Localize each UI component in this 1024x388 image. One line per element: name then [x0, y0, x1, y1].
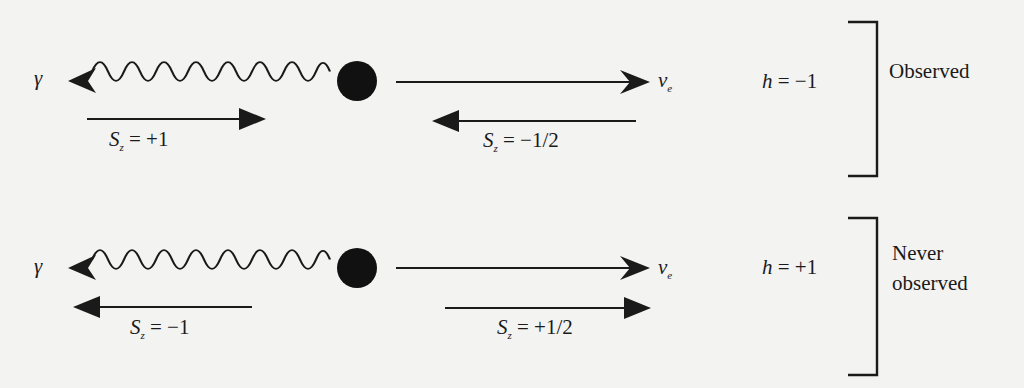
neutrino-symbol: ν	[658, 68, 667, 92]
spin-value: = −1	[150, 315, 189, 339]
spin-value: = +1	[129, 127, 168, 151]
arrowhead-filled-left-icon	[73, 296, 100, 318]
neutrino-subscript: e	[667, 269, 672, 281]
spin-symbol: S	[483, 128, 494, 152]
spin-value: = +1/2	[517, 315, 573, 339]
arrowhead-left-icon	[68, 68, 96, 93]
helicity-label: h = −1	[762, 71, 817, 92]
helicity-symbol: h	[762, 69, 773, 93]
photon-wave-arrow	[68, 250, 330, 280]
row-never-observed	[68, 218, 877, 375]
neutrino-momentum-arrow	[396, 256, 650, 280]
spin-symbol: S	[109, 127, 120, 151]
photon-spin-label: Sz = −1	[130, 317, 189, 338]
helicity-label: h = +1	[762, 257, 817, 278]
neutrino-spin-label: Sz = +1/2	[497, 317, 573, 338]
decay-vertex-dot	[337, 248, 377, 288]
arrowhead-left-icon	[68, 255, 96, 280]
photon-label: γ	[34, 68, 42, 89]
neutrino-momentum-arrow	[396, 70, 650, 94]
row-observed	[68, 22, 877, 176]
arrowhead-filled-left-icon	[432, 110, 459, 132]
neutrino-label: νe	[658, 70, 672, 91]
spin-symbol: S	[497, 315, 508, 339]
spin-subscript: z	[120, 141, 124, 153]
status-line: observed	[892, 268, 968, 298]
photon-spin-label: Sz = +1	[109, 129, 168, 150]
status-never-observed: Never observed	[892, 238, 968, 298]
helicity-symbol: h	[762, 255, 773, 279]
arrowhead-filled-right-icon	[239, 108, 266, 130]
bracket-never-observed	[848, 218, 877, 375]
spin-value: = −1/2	[503, 128, 559, 152]
photon-wave-arrow	[68, 62, 330, 93]
spin-subscript: z	[141, 329, 145, 341]
helicity-value: = −1	[778, 69, 817, 93]
neutrino-symbol: ν	[658, 255, 667, 279]
decay-vertex-dot	[337, 61, 377, 101]
neutrino-spin-label: Sz = −1/2	[483, 130, 559, 151]
status-line: Observed	[889, 56, 969, 86]
photon-label: γ	[34, 256, 42, 277]
spin-subscript: z	[508, 329, 512, 341]
helicity-value: = +1	[778, 255, 817, 279]
status-line: Never	[892, 238, 968, 268]
status-observed: Observed	[889, 56, 969, 86]
neutrino-label: νe	[658, 257, 672, 278]
arrowhead-filled-right-icon	[624, 297, 651, 319]
spin-symbol: S	[130, 315, 141, 339]
bracket-observed	[848, 22, 877, 176]
neutrino-subscript: e	[667, 82, 672, 94]
spin-subscript: z	[494, 142, 498, 154]
